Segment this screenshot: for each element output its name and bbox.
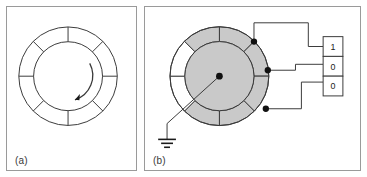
panel-a-drawing <box>7 7 136 170</box>
encoder-figure: (a) <box>0 0 367 177</box>
panel-b: 1 0 0 (b) <box>144 6 361 171</box>
contact-bottom-dot <box>263 106 269 112</box>
digit-cell-0-value: 1 <box>331 42 336 52</box>
panel-a-label: (a) <box>15 156 28 166</box>
encoder-ring-a <box>19 27 117 125</box>
digit-cell-1-value: 0 <box>331 62 336 72</box>
contact-top-dot <box>251 38 257 44</box>
wire-contact-middle <box>268 64 323 70</box>
wire-contact-top <box>254 23 323 47</box>
panel-b-drawing: 1 0 0 <box>145 7 360 170</box>
ring-inner-circle <box>34 42 103 111</box>
panel-a: (a) <box>6 6 137 171</box>
ground-icon <box>158 139 176 147</box>
digit-readout: 1 0 0 <box>323 37 343 96</box>
center-hub-dot <box>216 73 223 80</box>
panel-b-label: (b) <box>153 156 166 166</box>
digit-cell-2-value: 0 <box>331 81 336 91</box>
wire-contact-bottom <box>266 82 323 109</box>
contact-middle-dot <box>265 67 271 73</box>
